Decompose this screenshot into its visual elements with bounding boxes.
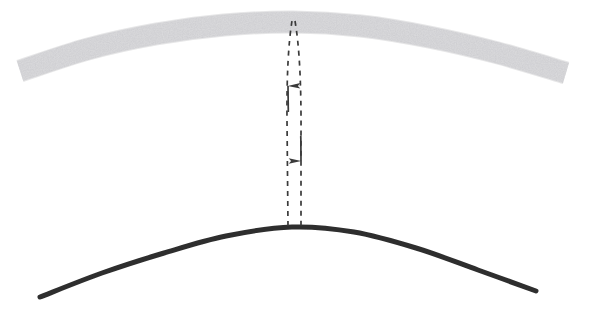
lower-arc-curve — [40, 227, 536, 297]
lower-arc-curve-stroke — [40, 227, 536, 297]
gap-arrow-group — [287, 21, 301, 226]
arc-gap-diagram — [0, 0, 609, 313]
dashed-arrow-up-line — [287, 21, 292, 226]
upper-arc-band — [20, 22, 566, 73]
upper-arc-band-stroke — [20, 22, 566, 73]
dashed-arrow-down-line — [295, 21, 301, 226]
diagram-canvas — [0, 0, 609, 313]
